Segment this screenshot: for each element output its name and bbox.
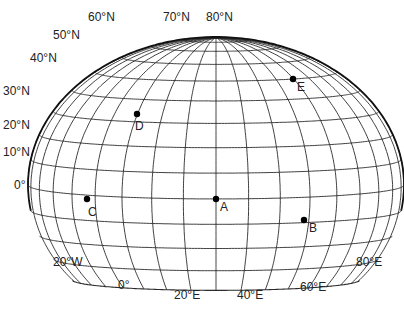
meridian-line xyxy=(53,38,216,285)
point-label-c: C xyxy=(88,206,97,218)
lon-label-60e: 60°E xyxy=(300,281,326,293)
point-label-b: B xyxy=(309,222,317,234)
globe-diagram: 0° 10°N 20°N 30°N 40°N 50°N 60°N 70°N 80… xyxy=(0,0,404,321)
point-b-marker xyxy=(301,217,307,223)
meridian-line xyxy=(216,38,249,291)
meridian-line xyxy=(122,38,216,289)
meridian-line xyxy=(216,38,310,289)
lat-label-10n: 10°N xyxy=(3,146,30,158)
point-a-marker xyxy=(213,196,219,202)
lon-label-0: 0° xyxy=(118,279,129,291)
lat-label-20n: 20°N xyxy=(3,119,30,131)
point-d-marker xyxy=(134,111,140,117)
lon-label-80e: 80°E xyxy=(356,256,382,268)
lat-label-70n: 70°N xyxy=(163,11,190,23)
meridian-line xyxy=(216,38,379,285)
lat-label-30n: 30°N xyxy=(3,85,30,97)
meridian-line xyxy=(216,38,401,282)
lat-label-0: 0° xyxy=(14,179,25,191)
point-label-e: E xyxy=(297,81,305,93)
graticule-svg xyxy=(0,0,404,321)
meridian-lines xyxy=(28,38,404,291)
lat-label-80n: 80°N xyxy=(206,11,233,23)
lon-label-20w: 20°W xyxy=(53,256,82,268)
point-label-a: A xyxy=(220,201,228,213)
lat-label-40n: 40°N xyxy=(30,52,57,64)
meridian-line xyxy=(72,38,216,287)
lon-label-20e: 20°E xyxy=(174,289,200,301)
meridian-line xyxy=(216,38,360,287)
point-label-d: D xyxy=(135,120,144,132)
lat-label-60n: 60°N xyxy=(88,11,115,23)
point-c-marker xyxy=(84,196,90,202)
lat-label-50n: 50°N xyxy=(53,29,80,41)
lon-label-40e: 40°E xyxy=(237,289,263,301)
point-e-marker xyxy=(290,76,296,82)
meridian-line xyxy=(31,38,216,282)
meridian-line xyxy=(183,38,216,291)
